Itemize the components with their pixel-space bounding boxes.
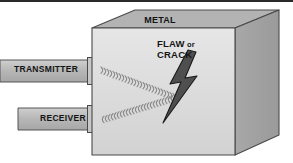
flaw-label-line2: CRACK: [157, 49, 192, 60]
flaw-label-line1: FLAW: [157, 38, 185, 49]
receiver-label: RECEIVER: [40, 113, 86, 123]
transmitter-label: TRANSMITTER: [14, 64, 78, 74]
figure-container: METAL FLAW or CRACK TRANSMITTER RECEIVER: [0, 0, 293, 163]
metal-label: METAL: [144, 15, 175, 25]
flaw-crack-label: FLAW or CRACK: [157, 39, 195, 59]
cube-right-face: [235, 10, 279, 155]
